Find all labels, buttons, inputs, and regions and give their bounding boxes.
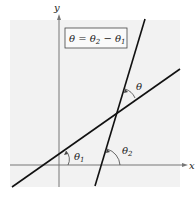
angle-between-lines-diagram: x y θ = θ2 − θ1 θ1 θ2 θ <box>0 0 196 198</box>
y-axis-arrow-icon <box>57 14 61 20</box>
y-axis-label: y <box>53 2 60 13</box>
x-axis-arrow-icon <box>182 163 188 167</box>
x-axis-label: x <box>189 160 195 171</box>
theta-label: θ <box>136 81 142 92</box>
